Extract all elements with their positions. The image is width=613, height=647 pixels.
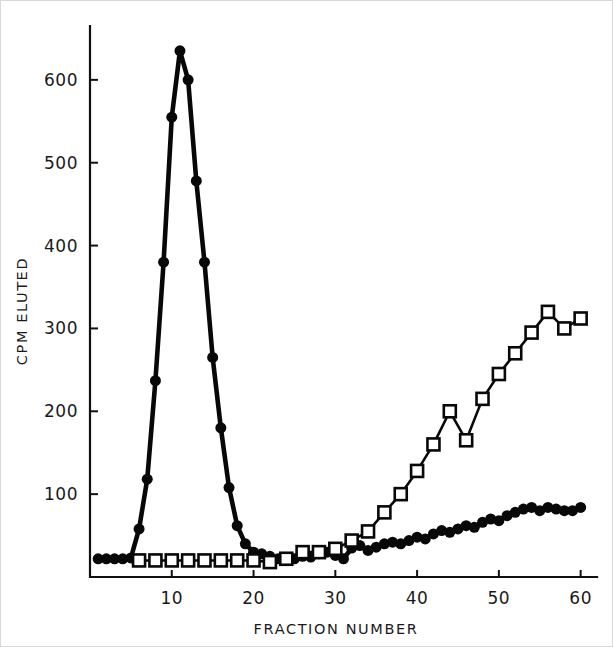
plot-axes: 102030405060 100200300400500600 [44,26,597,608]
y-tick-label: 400 [44,236,78,256]
data-point-open-squares-44 [444,405,456,417]
data-point-open-squares-38 [395,488,407,500]
data-point-open-squares-14 [198,554,210,566]
data-point-filled-circles-8 [150,375,161,386]
data-point-open-squares-48 [477,393,489,405]
x-axis-ticks: 102030405060 [160,570,592,608]
data-point-open-squares-36 [378,506,390,518]
data-point-open-squares-10 [166,554,178,566]
y-tick-label: 200 [44,401,78,421]
data-point-filled-circles-19 [240,538,251,549]
data-point-open-squares-32 [346,535,358,547]
data-point-filled-circles-7 [142,474,153,485]
y-axis-title: CPM ELUTED [14,257,30,365]
data-point-open-squares-8 [149,554,161,566]
data-point-filled-circles-60 [575,502,586,513]
data-point-filled-circles-6 [134,523,145,534]
data-point-open-squares-20 [248,554,260,566]
data-point-open-squares-16 [215,554,227,566]
data-point-filled-circles-14 [199,257,210,268]
data-point-open-squares-28 [313,546,325,558]
data-point-open-squares-50 [493,368,505,380]
y-tick-label: 600 [44,70,78,90]
data-point-filled-circles-9 [158,257,169,268]
series-filled-circles [93,45,586,566]
data-series-layer [93,45,587,568]
data-point-open-squares-24 [280,553,292,565]
data-point-open-squares-60 [575,312,587,324]
data-point-open-squares-42 [427,438,439,450]
series-line-filled-circles [98,51,580,561]
data-point-filled-circles-12 [183,74,194,85]
data-point-open-squares-40 [411,465,423,477]
y-tick-label: 100 [44,484,78,504]
elution-profile-chart: 102030405060 100200300400500600 FRACTION… [1,1,613,647]
data-point-filled-circles-18 [232,520,243,531]
data-point-filled-circles-16 [215,422,226,433]
data-point-open-squares-46 [460,434,472,446]
x-tick-label: 50 [488,588,511,608]
data-point-open-squares-34 [362,525,374,537]
data-point-open-squares-26 [297,546,309,558]
data-point-filled-circles-11 [174,45,185,56]
figure-container: 102030405060 100200300400500600 FRACTION… [0,0,613,647]
data-point-open-squares-58 [558,322,570,334]
data-point-open-squares-54 [526,327,538,339]
x-axis-title: FRACTION NUMBER [254,621,419,637]
data-point-open-squares-22 [264,556,276,568]
data-point-open-squares-6 [133,554,145,566]
data-point-filled-circles-17 [224,482,235,493]
data-point-open-squares-30 [329,543,341,555]
x-tick-label: 20 [242,588,265,608]
series-open-squares [133,306,587,568]
y-tick-label: 300 [44,318,78,338]
data-point-filled-circles-13 [191,175,202,186]
data-point-open-squares-18 [231,554,243,566]
x-tick-label: 60 [569,588,592,608]
data-point-open-squares-52 [509,347,521,359]
axis-lines [90,26,597,577]
x-tick-label: 40 [406,588,429,608]
data-point-filled-circles-10 [166,112,177,123]
data-point-filled-circles-15 [207,352,218,363]
data-point-open-squares-12 [182,554,194,566]
x-tick-label: 30 [324,588,347,608]
x-tick-label: 10 [160,588,183,608]
y-tick-label: 500 [44,153,78,173]
data-point-open-squares-56 [542,306,554,318]
